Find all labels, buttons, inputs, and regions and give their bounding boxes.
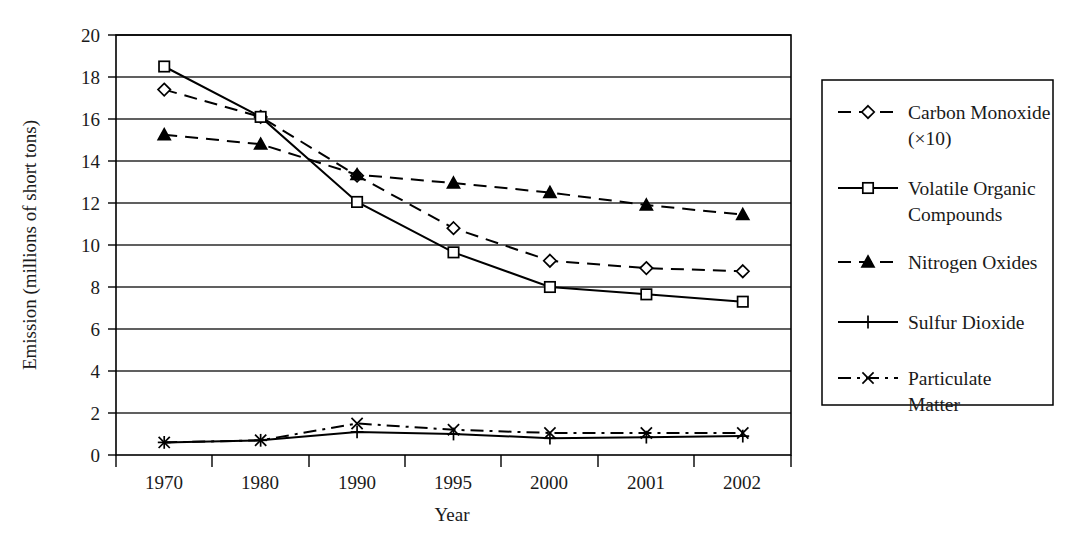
ytick-label-10: 10: [81, 235, 100, 256]
ytick-label-16: 16: [81, 109, 100, 130]
data-point: [158, 83, 170, 95]
data-point: [448, 247, 458, 257]
ytick-label-18: 18: [81, 67, 100, 88]
figure-caption: [116, 543, 956, 555]
data-point: [545, 282, 555, 292]
ytick-label-2: 2: [91, 403, 101, 424]
data-point: [544, 255, 556, 267]
data-point: [640, 262, 652, 274]
xtick-label-2002: 2002: [723, 472, 761, 493]
ytick-label-8: 8: [91, 277, 101, 298]
y-axis-ticks: [108, 35, 116, 455]
x-axis-ticks: [116, 455, 791, 467]
data-point: [448, 177, 460, 188]
x-axis-title: Year: [434, 504, 470, 525]
ytick-label-12: 12: [81, 193, 100, 214]
xtick-label-1970: 1970: [145, 472, 183, 493]
xtick-label-1995: 1995: [434, 472, 472, 493]
y-axis-title: Emission (millions of short tons): [19, 120, 41, 370]
data-point: [255, 112, 265, 122]
data-point: [447, 222, 459, 234]
data-point: [736, 430, 749, 443]
data-point: [738, 297, 748, 307]
legend-label-line2: Compounds: [908, 204, 1002, 225]
ytick-label-4: 4: [91, 361, 101, 382]
data-point: [641, 289, 651, 299]
data-point: [159, 61, 169, 71]
legend-label: Sulfur Dioxide: [908, 312, 1024, 333]
data-point: [737, 265, 749, 277]
legend-label: Particulate: [908, 368, 991, 389]
legend-label: Nitrogen Oxides: [908, 252, 1037, 273]
data-point: [352, 197, 362, 207]
emissions-line-chart: 20 18 16 14 12 10 8 6 4 2 0 1970 1980: [0, 0, 1077, 555]
ytick-label-14: 14: [81, 151, 101, 172]
ytick-label-20: 20: [81, 25, 100, 46]
ytick-label-0: 0: [91, 445, 101, 466]
figure-root: 20 18 16 14 12 10 8 6 4 2 0 1970 1980: [0, 0, 1077, 555]
series-nitrogen-oxides: [158, 129, 749, 220]
data-point: [737, 209, 749, 220]
data-point: [158, 129, 170, 140]
xtick-label-1980: 1980: [241, 472, 279, 493]
legend-label: Volatile Organic: [908, 178, 1036, 199]
xtick-label-2000: 2000: [530, 472, 568, 493]
legend-label: Carbon Monoxide: [908, 102, 1050, 123]
y-axis-tick-labels: 20 18 16 14 12 10 8 6 4 2 0: [81, 25, 101, 466]
x-axis-tick-labels: 1970 1980 1990 1995 2000 2001 2002: [145, 472, 761, 493]
xtick-label-2001: 2001: [627, 472, 665, 493]
legend-swatch-marker: [863, 183, 873, 193]
ytick-label-6: 6: [91, 319, 101, 340]
xtick-label-1990: 1990: [338, 472, 376, 493]
legend-label-line2: (×10): [908, 128, 952, 150]
legend-label-line2: Matter: [908, 394, 960, 415]
